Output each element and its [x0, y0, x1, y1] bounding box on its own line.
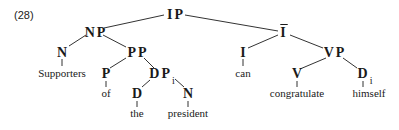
node-pp: PP — [127, 46, 148, 60]
node-n-president: N — [183, 87, 195, 101]
node-np: NP — [85, 26, 108, 40]
node-dp: DPi — [149, 67, 174, 84]
edge-ibar-vp — [290, 35, 323, 48]
leaf-congratulate: congratulate — [270, 88, 324, 99]
leaf-president: president — [168, 108, 208, 119]
node-v: V — [292, 67, 304, 81]
node-d-the: D — [132, 87, 144, 101]
edge-pp-p — [110, 58, 126, 68]
node-d-himself: Di — [358, 67, 373, 84]
leaf-the: the — [130, 108, 143, 119]
node-p: P — [102, 67, 113, 81]
node-d2-label: D — [358, 66, 370, 81]
node-vp: VP — [324, 46, 347, 60]
leaf-supporters: Supporters — [38, 68, 86, 79]
node-dp-label: DP — [149, 66, 172, 81]
edge-ip-np — [104, 15, 164, 28]
leaf-himself: himself — [353, 88, 386, 99]
node-ip: IP — [167, 8, 185, 22]
node-ibar: I — [280, 26, 287, 40]
node-n-supporters: N — [57, 46, 69, 60]
node-d2-index: i — [370, 75, 373, 86]
edge-np-n — [69, 35, 86, 46]
example-number: (28) — [14, 9, 34, 21]
leaf-can: can — [235, 68, 250, 79]
leaf-of: of — [101, 88, 110, 99]
edge-ibar-i — [248, 35, 278, 48]
edge-ip-ibar — [185, 15, 278, 31]
node-i: I — [240, 46, 247, 60]
